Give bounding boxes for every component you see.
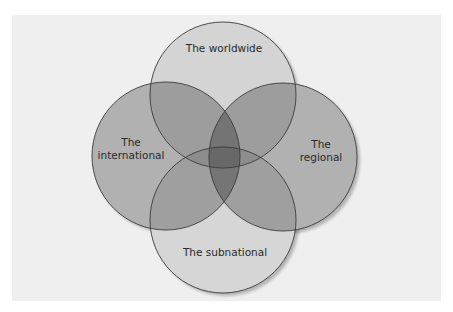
label-regional: The regional <box>300 138 343 164</box>
circle-subnational[interactable] <box>150 147 296 293</box>
label-international: The international <box>98 136 165 162</box>
label-international-line1: The <box>98 136 165 149</box>
label-worldwide-text: The worldwide <box>186 42 262 54</box>
label-regional-line2: regional <box>300 151 343 164</box>
label-regional-line1: The <box>300 138 343 151</box>
label-subnational: The subnational <box>183 246 267 259</box>
label-international-line2: international <box>98 149 165 162</box>
label-worldwide: The worldwide <box>186 42 262 55</box>
label-subnational-text: The subnational <box>183 246 267 258</box>
